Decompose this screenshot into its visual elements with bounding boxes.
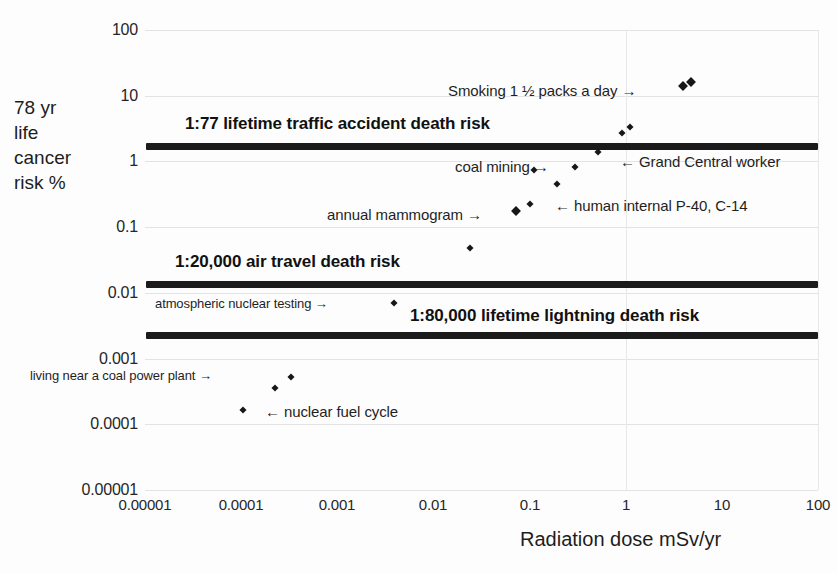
point-annotation: ← human internal P-40, C-14 — [555, 197, 747, 214]
gridline-vertical — [818, 30, 819, 490]
point-annotation: atmospheric nuclear testing → — [155, 296, 328, 311]
point-annotation: coal mining → — [455, 158, 549, 175]
y-tick-label: 10 — [121, 87, 138, 105]
gridline-horizontal — [145, 30, 818, 31]
point-annotation: living near a coal power plant → — [30, 368, 212, 383]
gridline-horizontal — [145, 227, 818, 228]
x-tick-label: 100 — [806, 496, 830, 513]
y-tick-label: 0.001 — [99, 350, 138, 368]
point-annotation: Smoking 1 ½ packs a day → — [448, 82, 636, 99]
x-tick-label: 0.001 — [319, 496, 356, 513]
benchmark-bar — [146, 332, 818, 339]
y-tick-label: 0.01 — [108, 284, 138, 302]
benchmark-bar — [146, 281, 818, 288]
gridline-horizontal — [145, 293, 818, 294]
y-axis-tick-labels: 1001010.10.010.0010.00010.00001 — [0, 30, 138, 490]
gridline-vertical — [626, 30, 627, 490]
x-tick-label: 0.1 — [520, 496, 540, 513]
x-axis-tick-labels: 0.000010.00010.0010.010.1110100 — [145, 496, 818, 518]
x-tick-label: 10 — [714, 496, 730, 513]
x-tick-label: 0.0001 — [219, 496, 264, 513]
point-annotation: ← nuclear fuel cycle — [265, 403, 398, 420]
chart-canvas: 78 yr life cancer risk % 1001010.10.010.… — [0, 0, 837, 573]
point-annotation: annual mammogram → — [327, 206, 482, 223]
x-axis-title: Radiation dose mSv/yr — [520, 528, 721, 551]
x-tick-label: 0.01 — [419, 496, 447, 513]
benchmark-label: 1:77 lifetime traffic accident death ris… — [185, 114, 490, 134]
y-tick-label: 100 — [112, 21, 138, 39]
point-annotation: ← Grand Central worker — [620, 153, 780, 170]
y-tick-label: 0.0001 — [90, 415, 138, 433]
benchmark-bar — [146, 143, 818, 150]
y-tick-label: 0.1 — [116, 218, 138, 236]
gridline-horizontal — [145, 359, 818, 360]
gridline-horizontal — [145, 424, 818, 425]
x-tick-label: 1 — [622, 496, 630, 513]
benchmark-label: 1:20,000 air travel death risk — [175, 252, 400, 272]
gridline-horizontal — [145, 490, 818, 491]
x-tick-label: 0.00001 — [119, 496, 172, 513]
benchmark-label: 1:80,000 lifetime lightning death risk — [410, 306, 699, 326]
y-tick-label: 1 — [129, 152, 138, 170]
